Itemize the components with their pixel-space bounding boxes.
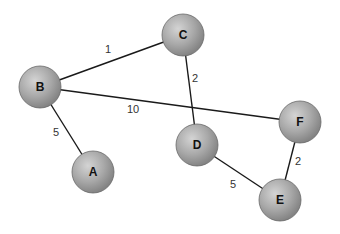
graph-diagram: 1105252 ABCDEF bbox=[0, 0, 340, 234]
edge-weight-b-a: 5 bbox=[53, 126, 59, 138]
node-e: E bbox=[259, 179, 301, 221]
node-b: B bbox=[19, 66, 61, 108]
node-label: B bbox=[36, 80, 45, 94]
edge-weight-c-d: 2 bbox=[192, 72, 198, 84]
node-label: D bbox=[193, 138, 202, 152]
nodes-layer: ABCDEF bbox=[19, 14, 321, 221]
node-label: A bbox=[89, 165, 98, 179]
edge-weight-d-e: 5 bbox=[230, 178, 236, 190]
node-a: A bbox=[72, 151, 114, 193]
node-f: F bbox=[279, 101, 321, 143]
node-label: F bbox=[296, 115, 303, 129]
edge-b-f bbox=[40, 87, 300, 122]
edge-weight-b-c: 1 bbox=[105, 43, 111, 55]
node-label: C bbox=[179, 28, 188, 42]
node-label: E bbox=[276, 193, 284, 207]
edge-b-c bbox=[40, 35, 183, 87]
edge-weight-f-e: 2 bbox=[295, 155, 301, 167]
edge-weight-b-f: 10 bbox=[127, 103, 139, 115]
node-d: D bbox=[176, 124, 218, 166]
node-c: C bbox=[162, 14, 204, 56]
